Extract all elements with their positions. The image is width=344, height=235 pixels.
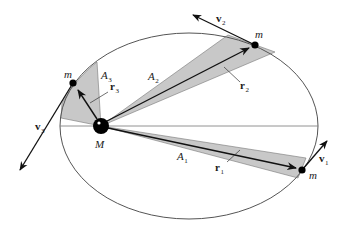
central-mass-label: M: [95, 139, 104, 150]
velocity-label-2: v2: [216, 13, 226, 24]
central-mass-highlight: [97, 121, 100, 124]
area-subscript-3: 3: [108, 76, 112, 84]
central-mass: [93, 118, 109, 134]
area-symbol-1: A: [177, 150, 184, 162]
orbiting-mass-3: [69, 79, 76, 86]
radius-subscript-3: 3: [115, 87, 119, 95]
orbiting-mass-2: [251, 41, 258, 48]
area-symbol-2: A: [148, 70, 155, 82]
area-sector-1: [101, 126, 306, 178]
velocity-vector-3: [20, 83, 73, 170]
orbit-figure: [0, 0, 344, 235]
radius-vector-1: [108, 128, 296, 168]
mass-label-2: m: [255, 29, 263, 40]
velocity-label-1: v1: [319, 153, 329, 164]
velocity-symbol-3: v: [35, 120, 41, 132]
radius-subscript-2: 2: [245, 86, 249, 94]
area-label-1: A1: [177, 151, 188, 162]
radius-vector-2: [107, 48, 249, 121]
area-subscript-2: 2: [155, 77, 159, 85]
radius-label-1: r1: [215, 162, 224, 173]
radius-subscript-1: 1: [220, 168, 224, 176]
area-subscript-1: 1: [184, 157, 188, 165]
velocity-subscript-2: 2: [222, 19, 226, 27]
orbiting-mass-1: [298, 166, 305, 173]
radius-label-2: r2: [240, 80, 249, 91]
mass-label-3: m: [64, 69, 72, 80]
area-label-3: A3: [101, 70, 112, 81]
mass-label-1: m: [309, 170, 317, 181]
velocity-label-3: v3: [35, 121, 45, 132]
velocity-symbol-1: v: [319, 152, 325, 164]
velocity-subscript-1: 1: [325, 159, 329, 167]
area-symbol-3: A: [101, 69, 108, 81]
kepler-orbit-diagram: M m v1 r1 A1 m v2 r2 A2 m v3 r3 A3: [0, 0, 344, 235]
area-label-2: A2: [148, 71, 159, 82]
velocity-symbol-2: v: [216, 12, 222, 24]
velocity-subscript-3: 3: [41, 127, 45, 135]
